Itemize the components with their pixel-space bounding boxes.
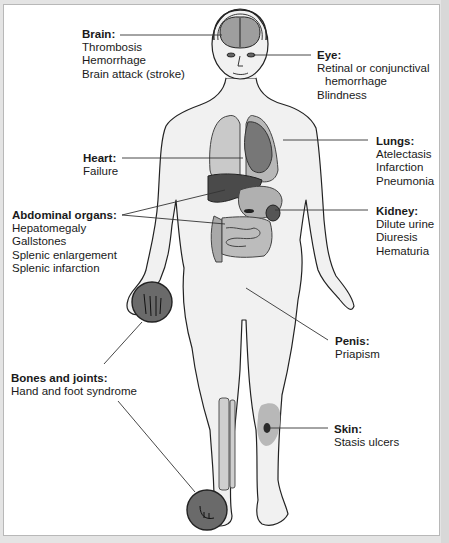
callout-lungs: Lungs: Atelectasis Infarction Pneumonia [376, 135, 434, 188]
callout-item: Pneumonia [376, 175, 434, 188]
callout-item: Retinal or conjunctival [317, 62, 430, 75]
callout-item: hemorrhage [317, 75, 430, 88]
brain-icon [220, 17, 260, 48]
callout-item: Dilute urine [376, 218, 434, 231]
callout-item: Hemorrhage [82, 54, 185, 67]
callout-title: Heart: [83, 152, 118, 165]
callout-item: Splenic infarction [12, 262, 117, 275]
spleen-mark [244, 209, 254, 213]
callout-skin: Skin: Stasis ulcers [334, 423, 399, 449]
intestines-icon [211, 216, 272, 262]
callout-item: Brain attack (stroke) [82, 68, 185, 81]
leader-bones-hand [104, 322, 142, 364]
callout-eye: Eye: Retinal or conjunctival hemorrhage … [317, 49, 430, 102]
callout-title: Abdominal organs: [12, 209, 117, 222]
leader-bones-foot [118, 401, 195, 492]
callout-bones-and-joints: Bones and joints: Hand and foot syndrome [11, 372, 137, 398]
kidney-icon [266, 205, 280, 221]
callout-title: Penis: [335, 335, 380, 348]
callout-item: Thrombosis [82, 41, 185, 54]
callout-title: Lungs: [376, 135, 434, 148]
callout-item: Stasis ulcers [334, 436, 399, 449]
callout-penis: Penis: Priapism [335, 335, 380, 361]
callout-title: Brain: [82, 28, 185, 41]
callout-item: Hand and foot syndrome [11, 385, 137, 398]
callout-heart: Heart: Failure [83, 152, 118, 178]
tibia-bones-icon [219, 398, 235, 490]
callout-item: Gallstones [12, 235, 117, 248]
callout-title: Kidney: [376, 205, 434, 218]
callout-title: Skin: [334, 423, 399, 436]
callout-title: Bones and joints: [11, 372, 137, 385]
callout-kidney: Kidney: Dilute urine Diuresis Hematuria [376, 205, 434, 258]
callout-item: Hepatomegaly [12, 222, 117, 235]
callout-item: Splenic enlargement [12, 249, 117, 262]
callout-brain: Brain: Thrombosis Hemorrhage Brain attac… [82, 28, 185, 81]
callout-item: Atelectasis [376, 148, 434, 161]
callout-item: Diuresis [376, 231, 434, 244]
hand-highlight-circle [132, 282, 172, 322]
callout-abdominal-organs: Abdominal organs: Hepatomegaly Gallstone… [12, 209, 117, 275]
callout-title: Eye: [317, 49, 430, 62]
callout-item: Hematuria [376, 245, 434, 258]
callout-item: Priapism [335, 348, 380, 361]
foot-highlight-circle [187, 490, 227, 530]
callout-item: Blindness [317, 89, 430, 102]
callout-item: Infarction [376, 161, 434, 174]
callout-item: Failure [83, 165, 118, 178]
